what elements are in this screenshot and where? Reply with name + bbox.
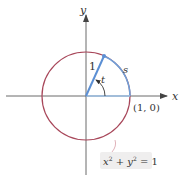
- x-axis-label: x: [172, 90, 179, 103]
- y-axis-label: y: [79, 4, 87, 17]
- equation-leader: [112, 140, 116, 152]
- point-label: (1, 0): [133, 102, 160, 113]
- angle-label: t: [101, 74, 106, 85]
- radius-label: 1: [89, 60, 96, 73]
- arc-s: [104, 56, 130, 96]
- unit-circle-diagram: y x 1 t s (1, 0) x2 + y2 = 1: [0, 0, 185, 178]
- point-on-circle: [102, 54, 106, 58]
- arc-label: s: [123, 64, 128, 75]
